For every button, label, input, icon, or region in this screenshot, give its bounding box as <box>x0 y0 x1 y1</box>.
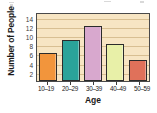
bar <box>106 44 124 81</box>
x-axis-tick-labels: 10–1920–2930–3940–4950–59 <box>34 85 154 92</box>
bar <box>62 40 80 81</box>
x-tick-label: 30–39 <box>86 85 102 92</box>
bar <box>129 60 147 81</box>
scan-artifact-icon <box>140 1 144 3</box>
x-tick-label: 20–29 <box>62 85 78 92</box>
y-axis-tick-labels: 2468101214 <box>20 14 33 82</box>
y-tick-label: 14 <box>20 17 33 23</box>
y-axis-title: Number of People <box>6 5 16 77</box>
scan-artifact-icon <box>104 1 111 2</box>
x-tick-label: 10–19 <box>38 85 54 92</box>
x-axis-title: Age <box>36 95 150 105</box>
bar <box>84 26 102 81</box>
y-tick-label: 2 <box>20 72 33 78</box>
y-tick-label: 8 <box>20 44 33 50</box>
scan-artifact-icon <box>9 2 14 3</box>
bar <box>39 53 57 81</box>
x-tick-label: 50–59 <box>134 85 150 92</box>
y-tick-label: 4 <box>20 63 33 69</box>
plot-area <box>36 13 150 82</box>
bar-series <box>37 14 149 81</box>
x-tick-label: 40–49 <box>110 85 126 92</box>
y-tick-label: 10 <box>20 35 33 41</box>
y-tick-label: 6 <box>20 53 33 59</box>
y-tick-label: 12 <box>20 26 33 32</box>
histogram-figure: Number of People 2468101214 10–1920–2930… <box>0 0 157 113</box>
